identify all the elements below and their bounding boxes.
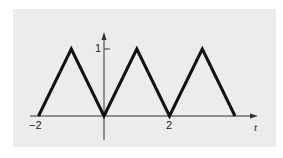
x-tick-label-neg2: −2 [29,120,42,131]
triangle-wave-line [39,49,236,116]
triangle-wave-chart [0,0,283,158]
x-tick-label-2: 2 [166,120,172,131]
y-tick-label-1: 1 [95,43,101,54]
x-axis-label: t [254,122,257,133]
y-axis-arrow-icon [102,32,107,40]
x-axis-arrow-icon [250,114,258,119]
